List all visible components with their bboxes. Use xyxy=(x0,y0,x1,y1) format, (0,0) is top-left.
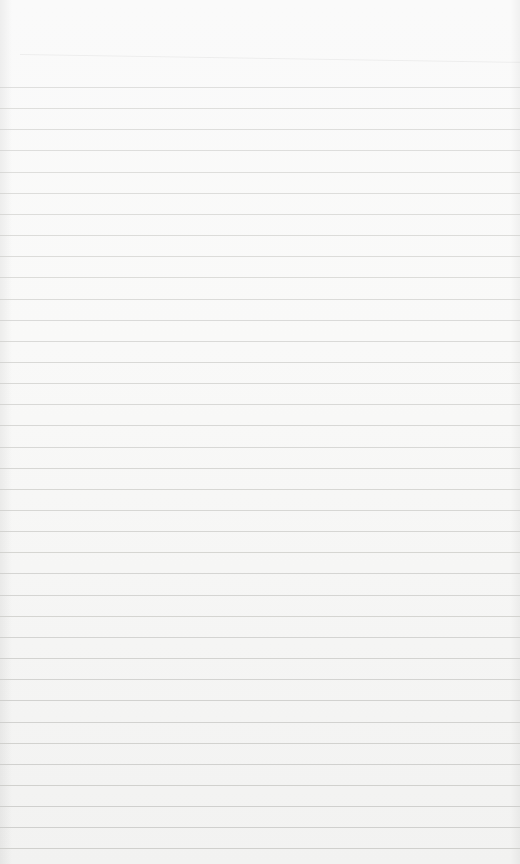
ruled-line xyxy=(0,722,520,723)
ruled-line xyxy=(0,172,520,173)
ruled-line xyxy=(0,383,520,384)
ruled-line xyxy=(0,256,520,257)
ruled-line xyxy=(0,827,520,828)
ruled-line xyxy=(0,531,520,532)
ruled-line xyxy=(0,658,520,659)
ruled-line xyxy=(0,425,520,426)
lined-paper xyxy=(0,0,520,864)
ruled-line xyxy=(0,595,520,596)
ruled-line xyxy=(0,214,520,215)
ruled-line xyxy=(0,447,520,448)
ruled-line xyxy=(0,764,520,765)
ruled-line xyxy=(0,277,520,278)
ruled-line xyxy=(0,320,520,321)
ruled-line xyxy=(0,489,520,490)
ruled-line xyxy=(0,785,520,786)
ruled-line xyxy=(0,150,520,151)
ruled-line xyxy=(0,743,520,744)
ruled-line xyxy=(0,193,520,194)
ruled-line xyxy=(0,129,520,130)
ruled-line xyxy=(0,848,520,849)
ruled-line xyxy=(0,299,520,300)
ruled-line xyxy=(0,108,520,109)
ruled-line xyxy=(0,510,520,511)
ruled-line xyxy=(0,616,520,617)
ruled-line xyxy=(0,806,520,807)
ruled-line xyxy=(0,235,520,236)
ruled-line xyxy=(0,404,520,405)
ruled-line xyxy=(0,637,520,638)
ruled-line xyxy=(0,341,520,342)
ruled-line xyxy=(0,468,520,469)
ruled-line xyxy=(0,552,520,553)
ruled-line xyxy=(0,679,520,680)
ruled-line xyxy=(0,573,520,574)
ruled-line xyxy=(0,700,520,701)
ruled-line xyxy=(0,362,520,363)
top-crease xyxy=(20,54,520,63)
ruled-line xyxy=(0,87,520,88)
